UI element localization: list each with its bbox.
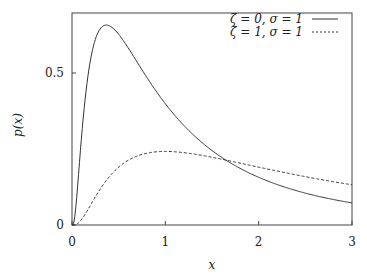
svg-text:2: 2 [255, 235, 263, 249]
series-line-zeta0 [72, 25, 352, 225]
plot-frame [72, 13, 352, 225]
y-axis-label: p(x) [11, 113, 25, 137]
svg-text:0: 0 [56, 218, 64, 232]
svg-text:3: 3 [348, 235, 356, 249]
series-line-zeta1 [72, 151, 352, 225]
svg-text:0: 0 [68, 235, 76, 249]
axis-ticks: 012300.5 [45, 66, 356, 249]
legend-label-1: ζ = 1, σ = 1 [230, 25, 303, 39]
svg-text:1: 1 [162, 235, 170, 249]
legend: ζ = 0, σ = 1 ζ = 1, σ = 1 [230, 12, 338, 39]
legend-label-0: ζ = 0, σ = 1 [230, 12, 303, 26]
chart: 012300.5 x p(x) ζ = 0, σ = 1 ζ = 1, σ = … [0, 0, 367, 279]
x-axis-label: x [209, 258, 216, 272]
svg-text:0.5: 0.5 [45, 66, 64, 80]
